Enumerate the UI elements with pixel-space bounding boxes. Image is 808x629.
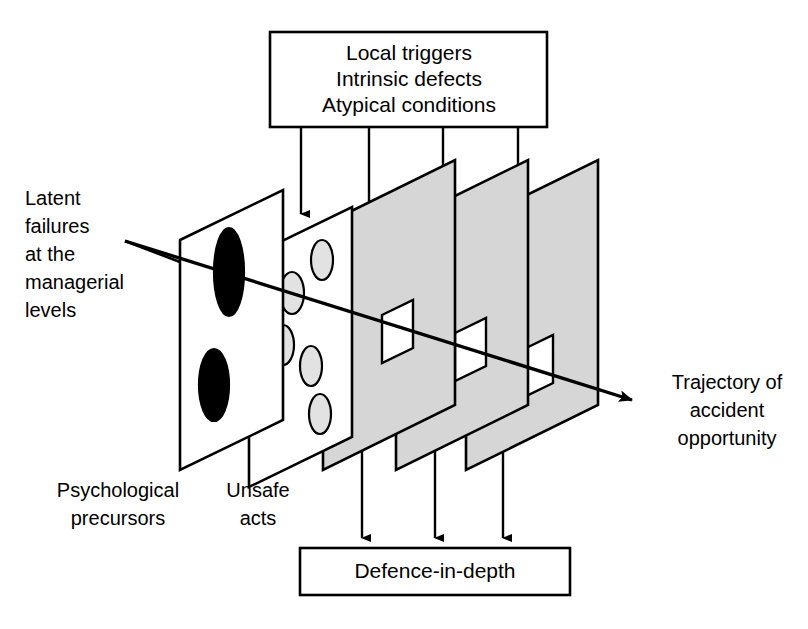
psychological-precursors-line-1: Psychological bbox=[57, 479, 179, 501]
defence-in-depth-label: Defence-in-depth bbox=[354, 559, 515, 582]
latent-failures-line-5: levels bbox=[25, 299, 76, 321]
swiss-cheese-model-diagram: Local triggers Intrinsic defects Atypica… bbox=[0, 0, 808, 629]
latent-failures-line-3: at the bbox=[25, 243, 75, 265]
latent-failures-plane bbox=[180, 190, 283, 470]
psychological-precursors-line-2: precursors bbox=[71, 507, 165, 529]
latent-failures-pointer bbox=[125, 241, 180, 262]
latent-hole-2 bbox=[199, 349, 229, 421]
unsafe-acts-line-1: Unsafe bbox=[226, 479, 289, 501]
top-box-line-3: Atypical conditions bbox=[322, 93, 496, 116]
unsafe-acts-line-2: acts bbox=[240, 507, 277, 529]
psychological-precursors-label: Psychological precursors bbox=[57, 479, 179, 529]
trajectory-line-2: accident bbox=[690, 399, 765, 421]
latent-failures-line-4: managerial bbox=[25, 271, 124, 293]
precursor-hole-1 bbox=[311, 240, 333, 280]
trajectory-label: Trajectory of accident opportunity bbox=[672, 371, 783, 449]
diagram-canvas: Local triggers Intrinsic defects Atypica… bbox=[0, 0, 808, 629]
top-box-line-1: Local triggers bbox=[346, 41, 472, 64]
latent-failures-label: Latent failures at the managerial levels bbox=[25, 187, 124, 321]
precursor-hole-4 bbox=[300, 346, 322, 386]
unsafe-acts-label: Unsafe acts bbox=[226, 479, 289, 529]
trajectory-line-1: Trajectory of bbox=[672, 371, 783, 393]
top-box-line-2: Intrinsic defects bbox=[336, 67, 482, 90]
latent-failures-line-1: Latent bbox=[25, 187, 81, 209]
top-causes-box: Local triggers Intrinsic defects Atypica… bbox=[270, 32, 547, 127]
latent-failures-line-2: failures bbox=[25, 215, 89, 237]
trajectory-line-3: opportunity bbox=[678, 427, 777, 449]
precursor-hole-5 bbox=[309, 394, 331, 434]
defence-in-depth-box: Defence-in-depth bbox=[300, 548, 570, 595]
